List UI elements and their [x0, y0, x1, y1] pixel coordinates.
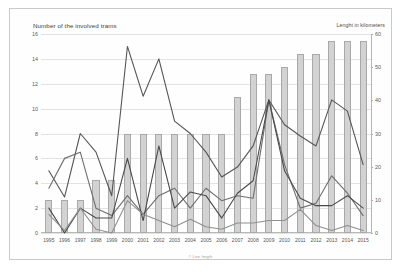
- x-tick-2009: 2009: [263, 237, 274, 243]
- x-tick-2014: 2014: [342, 237, 353, 243]
- y-tick-left-12: 12: [32, 81, 38, 87]
- line-series-layer: [41, 34, 371, 233]
- x-tick-2003: 2003: [169, 237, 180, 243]
- right-axis-title: Lenght in kilometers: [337, 22, 385, 28]
- chart-frame: Number of the involved trams Lenght in k…: [9, 8, 392, 260]
- y-tick-mark-right-50: [371, 67, 373, 68]
- y-tick-right-0: 0: [375, 230, 378, 236]
- x-tick-1998: 1998: [90, 237, 101, 243]
- y-tick-left-10: 10: [32, 106, 38, 112]
- y-tick-left-4: 4: [35, 180, 38, 186]
- line-series-line-1: [49, 46, 363, 196]
- y-tick-mark-right-40: [371, 100, 373, 101]
- x-tick-2001: 2001: [138, 237, 149, 243]
- y-tick-right-40: 40: [375, 97, 381, 103]
- x-tick-2006: 2006: [216, 237, 227, 243]
- y-tick-left-16: 16: [32, 31, 38, 37]
- y-tick-mark-right-10: [371, 200, 373, 201]
- y-tick-left-2: 2: [35, 205, 38, 211]
- x-tick-1997: 1997: [75, 237, 86, 243]
- y-tick-mark-right-60: [371, 34, 373, 35]
- y-tick-right-30: 30: [375, 131, 381, 137]
- x-tick-2011: 2011: [295, 237, 306, 243]
- y-tick-right-50: 50: [375, 64, 381, 70]
- x-tick-2005: 2005: [200, 237, 211, 243]
- x-axis: 1995199619971998199920002001200220032004…: [41, 237, 371, 249]
- x-tick-2000: 2000: [122, 237, 133, 243]
- x-tick-1999: 1999: [106, 237, 117, 243]
- y-tick-right-20: 20: [375, 164, 381, 170]
- y-tick-right-10: 10: [375, 197, 381, 203]
- gridline: [41, 233, 371, 234]
- x-tick-2012: 2012: [310, 237, 321, 243]
- x-tick-2010: 2010: [279, 237, 290, 243]
- x-tick-1996: 1996: [59, 237, 70, 243]
- y-tick-left-8: 8: [35, 131, 38, 137]
- x-tick-2008: 2008: [248, 237, 259, 243]
- credit-text: © Line length: [10, 255, 391, 259]
- y-tick-left-0: 0: [35, 230, 38, 236]
- x-tick-2007: 2007: [232, 237, 243, 243]
- y-tick-mark-right-20: [371, 167, 373, 168]
- y-tick-mark-right-30: [371, 134, 373, 135]
- left-axis-title: Number of the involved trams: [33, 22, 117, 29]
- y-tick-left-14: 14: [32, 56, 38, 62]
- x-tick-2013: 2013: [326, 237, 337, 243]
- x-tick-2002: 2002: [153, 237, 164, 243]
- y-tick-right-60: 60: [375, 31, 381, 37]
- line-series-line-3: [49, 100, 363, 233]
- y-tick-left-6: 6: [35, 155, 38, 161]
- y-tick-mark-right-0: [371, 233, 373, 234]
- x-tick-2004: 2004: [185, 237, 196, 243]
- x-tick-1995: 1995: [43, 237, 54, 243]
- line-series-line-2: [49, 100, 363, 216]
- x-tick-2015: 2015: [358, 237, 369, 243]
